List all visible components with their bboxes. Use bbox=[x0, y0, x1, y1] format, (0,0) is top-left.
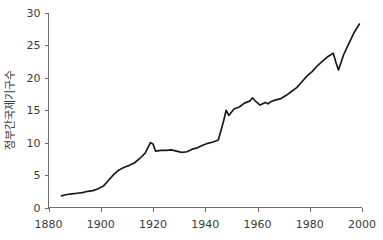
x-tick-label: 1900 bbox=[87, 218, 115, 231]
chart-container: 051015202530 188019001920194019601980200… bbox=[0, 0, 383, 240]
x-tick-label: 1880 bbox=[35, 218, 63, 231]
x-tick-label: 1960 bbox=[244, 218, 272, 231]
x-tick-labels: 1880190019201940196019802000 bbox=[35, 218, 377, 231]
y-tick-label: 15 bbox=[27, 104, 41, 117]
x-axis-group: 1880190019201940196019802000 bbox=[35, 208, 377, 231]
x-tick-label: 1980 bbox=[296, 218, 324, 231]
data-series-line bbox=[62, 24, 360, 196]
y-tick-label: 30 bbox=[27, 7, 41, 20]
x-tick-marks bbox=[50, 208, 363, 212]
y-tick-label: 5 bbox=[34, 169, 41, 182]
y-tick-labels: 051015202530 bbox=[27, 7, 41, 215]
x-tick-label: 2000 bbox=[348, 218, 376, 231]
x-tick-label: 1940 bbox=[191, 218, 219, 231]
y-tick-label: 25 bbox=[27, 39, 41, 52]
x-tick-label: 1920 bbox=[139, 218, 167, 231]
y-tick-label: 10 bbox=[27, 137, 41, 150]
y-tick-label: 20 bbox=[27, 72, 41, 85]
y-axis-title-group: 정부간국제기구수 bbox=[4, 70, 17, 150]
line-chart: 051015202530 188019001920194019601980200… bbox=[0, 0, 383, 240]
y-tick-marks bbox=[45, 14, 49, 209]
y-axis-group: 051015202530 bbox=[27, 7, 49, 215]
y-axis-title: 정부간국제기구수 bbox=[4, 70, 17, 150]
y-tick-label: 0 bbox=[34, 202, 41, 215]
plot-area bbox=[62, 24, 360, 196]
